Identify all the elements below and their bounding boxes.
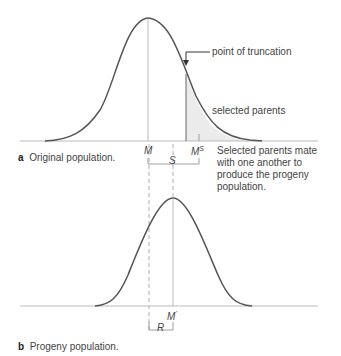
selected-mean-label: MS xyxy=(191,145,204,157)
mean-label-b: M' xyxy=(167,310,177,322)
mean-label-a: M xyxy=(144,145,152,156)
truncation-label: point of truncation xyxy=(212,46,292,57)
selected-parents-label: selected parents xyxy=(212,105,285,116)
original-population-curve xyxy=(45,18,262,141)
selection-differential-label: S xyxy=(169,155,176,166)
response-label: R xyxy=(157,322,164,333)
panel-b-caption: b Progeny population. xyxy=(18,341,119,352)
mating-note: Selected parents mate with one another t… xyxy=(217,145,317,193)
panel-a-graph xyxy=(20,18,318,164)
truncation-arrow xyxy=(186,52,210,62)
progeny-population-curve xyxy=(95,198,252,306)
panel-a-caption: a Original population. xyxy=(18,152,115,163)
